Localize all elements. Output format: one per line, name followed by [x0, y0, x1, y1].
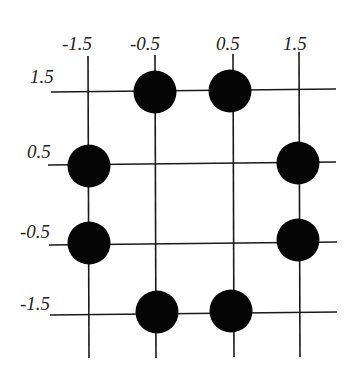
dot-neg1-5-0-5 [68, 145, 111, 188]
dot-neg0-5-1-5 [134, 71, 177, 114]
x-label-neg-1-5: -1.5 [62, 33, 92, 54]
dot-neg0-5-neg1-5 [136, 291, 179, 334]
dot-neg1-5-neg0-5 [68, 222, 111, 265]
y-label-neg-0-5: -0.5 [20, 221, 50, 242]
dot-0-5-neg1-5 [210, 290, 253, 333]
dot-1-5-0-5 [277, 142, 320, 185]
y-label-1-5: 1.5 [30, 66, 54, 87]
x-label-1-5: 1.5 [283, 33, 307, 54]
dot-1-5-neg0-5 [277, 219, 320, 262]
y-label-neg-1-5: -1.5 [20, 293, 50, 314]
grid-line-horizontal [51, 89, 336, 92]
dot-0-5-1-5 [209, 70, 252, 113]
grid-line-horizontal [50, 312, 337, 315]
x-label-neg-0-5: -0.5 [130, 33, 160, 54]
grid-line-vertical [88, 56, 89, 358]
grid-diagram: -1.5 -0.5 0.5 1.5 1.5 0.5 -0.5 -1.5 [0, 0, 355, 377]
y-label-0-5: 0.5 [27, 141, 51, 162]
x-label-0-5: 0.5 [216, 33, 240, 54]
grid-line-vertical [299, 52, 300, 357]
